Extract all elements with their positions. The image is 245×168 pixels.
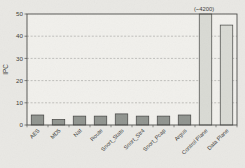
ipc-bar-chart: 01020304050AESMD5NatRouteSnort_StatsSnor… <box>0 0 245 168</box>
scan-noise-overlay <box>0 0 245 168</box>
scanned-figure: 01020304050AESMD5NatRouteSnort_StatsSnor… <box>0 0 245 168</box>
